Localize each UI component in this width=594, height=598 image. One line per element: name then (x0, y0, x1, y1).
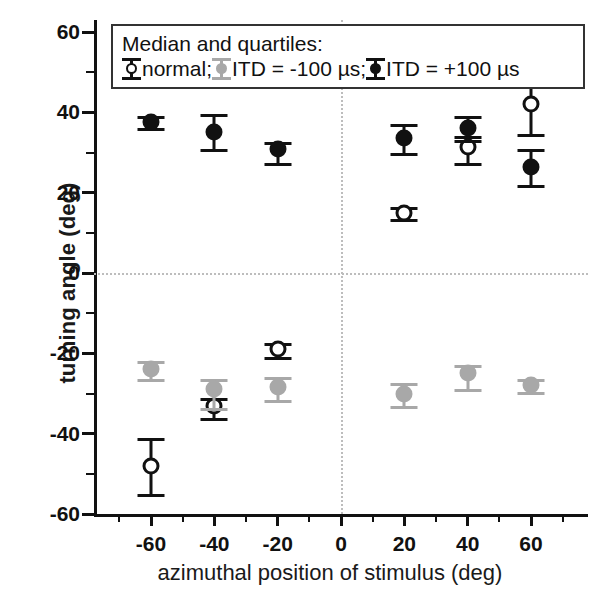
error-cap-lower (201, 149, 228, 152)
legend-label-1: normal; (142, 56, 212, 81)
x-tick-minor (562, 514, 564, 522)
y-tick-minor (86, 232, 94, 234)
error-cap-lower (454, 140, 481, 143)
legend-marker-2 (212, 56, 231, 81)
marker (459, 120, 476, 137)
y-tick (82, 111, 94, 114)
y-tick-label: 20 (57, 181, 80, 205)
legend-cap-lower (366, 77, 385, 80)
y-tick (82, 31, 94, 34)
marker (269, 140, 286, 157)
error-cap-lower (264, 163, 291, 166)
y-tick-label: 60 (57, 20, 80, 44)
x-tick-minor (435, 514, 437, 522)
error-cap-upper (391, 124, 418, 127)
y-tick-minor (86, 312, 94, 314)
x-tick-label: 0 (335, 532, 347, 556)
error-cap-upper (138, 438, 165, 441)
error-cap-lower (138, 494, 165, 497)
marker (143, 457, 160, 474)
x-tick (276, 514, 279, 526)
x-tick-minor (245, 514, 247, 522)
x-tick (340, 514, 343, 526)
x-tick (530, 514, 533, 526)
x-tick-label: -60 (136, 532, 166, 556)
error-cap-lower (518, 134, 545, 137)
error-cap-upper (518, 149, 545, 152)
y-tick (82, 272, 94, 275)
error-cap-lower (454, 389, 481, 392)
x-tick-label: -20 (262, 532, 292, 556)
y-tick-label: 0 (68, 261, 80, 285)
legend-label-3: ITD = +100 µs (386, 56, 520, 81)
marker (396, 385, 413, 402)
legend-label-2: ITD = -100 µs; (232, 56, 366, 81)
zero-line-vertical (341, 20, 343, 514)
legend-marker-1 (122, 56, 141, 81)
marker (523, 158, 540, 175)
y-tick-label: -40 (50, 422, 80, 446)
marker (269, 341, 286, 358)
plot-area: -60-40-200204060-60-40-200204060 Median … (94, 20, 588, 517)
y-tick-minor (86, 473, 94, 475)
x-tick-minor (372, 514, 374, 522)
y-tick (82, 191, 94, 194)
y-tick-label: 40 (57, 100, 80, 124)
x-tick (213, 514, 216, 526)
marker (206, 381, 223, 398)
x-axis-title: azimuthal position of stimulus (deg) (80, 560, 580, 586)
legend-dot (216, 63, 227, 74)
x-tick-label: 20 (393, 532, 416, 556)
legend-title: Median and quartiles: (122, 31, 575, 56)
marker (143, 361, 160, 378)
legend-dot (126, 63, 137, 74)
error-cap-lower (201, 408, 228, 411)
y-tick-minor (86, 393, 94, 395)
error-cap-lower (391, 406, 418, 409)
marker (396, 130, 413, 147)
y-tick (82, 513, 94, 516)
y-tick-minor (86, 71, 94, 73)
y-tick (82, 352, 94, 355)
error-cap-lower (264, 400, 291, 403)
x-tick-minor (498, 514, 500, 522)
x-tick-minor (182, 514, 184, 522)
x-tick-label: 40 (456, 532, 479, 556)
x-tick-label: 60 (519, 532, 542, 556)
x-tick-minor (118, 514, 120, 522)
legend-box: Median and quartiles: normal; ITD = -100… (111, 24, 585, 89)
marker (523, 377, 540, 394)
x-tick (466, 514, 469, 526)
legend-cap-lower (212, 77, 231, 80)
y-tick-minor (86, 152, 94, 154)
legend-cap-lower (122, 77, 141, 80)
x-tick (150, 514, 153, 526)
y-tick-label: -20 (50, 341, 80, 365)
marker (523, 96, 540, 113)
error-cap-lower (138, 379, 165, 382)
error-cap-lower (391, 153, 418, 156)
error-cap-upper (201, 114, 228, 117)
marker (206, 124, 223, 141)
marker (459, 365, 476, 382)
error-cap-lower (454, 163, 481, 166)
legend-dot (370, 63, 381, 74)
marker (396, 204, 413, 221)
error-cap-lower (518, 185, 545, 188)
x-tick-label: -40 (199, 532, 229, 556)
x-tick-minor (308, 514, 310, 522)
error-cap-lower (201, 418, 228, 421)
legend-marker-3 (366, 56, 385, 81)
figure-root: turning angle (deg) azimuthal position o… (0, 0, 594, 598)
marker (143, 114, 160, 131)
x-tick (403, 514, 406, 526)
marker (269, 379, 286, 396)
legend-entries: normal; ITD = -100 µs; ITD = +100 µs (122, 56, 575, 81)
y-axis-line (94, 20, 97, 517)
error-cap-upper (454, 116, 481, 119)
y-tick (82, 432, 94, 435)
y-tick-label: -60 (50, 502, 80, 526)
